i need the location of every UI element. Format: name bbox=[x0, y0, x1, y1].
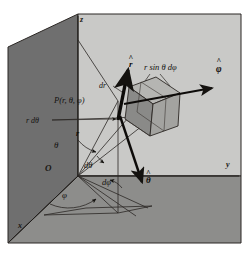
axis-label-y: y bbox=[225, 160, 230, 169]
d-phi-label: dφ bbox=[102, 177, 111, 187]
r-dtheta-label: r dθ bbox=[26, 116, 39, 125]
d-theta-label: dθ bbox=[84, 160, 92, 170]
point-label: P(r, θ, φ) bbox=[53, 95, 85, 105]
phi-hat-caret: ^ bbox=[217, 57, 222, 66]
theta-hat-label-group: θ ^ bbox=[146, 169, 151, 185]
r-hat-caret: ^ bbox=[129, 54, 134, 63]
theta-hat-caret: ^ bbox=[146, 169, 151, 178]
phi-label: φ bbox=[62, 190, 67, 200]
axis-label-x: x bbox=[17, 221, 22, 230]
theta-label: θ bbox=[54, 140, 59, 150]
figure-canvas: z y x O P(r, θ, φ) r dθ dr r sin θ dφ r … bbox=[0, 0, 250, 255]
spherical-coordinates-figure: z y x O P(r, θ, φ) r dθ dr r sin θ dφ r … bbox=[0, 0, 250, 255]
origin-label: O bbox=[45, 163, 52, 173]
dr-label: dr bbox=[99, 81, 107, 90]
r-sin-theta-dphi-label: r sin θ dφ bbox=[144, 62, 177, 72]
